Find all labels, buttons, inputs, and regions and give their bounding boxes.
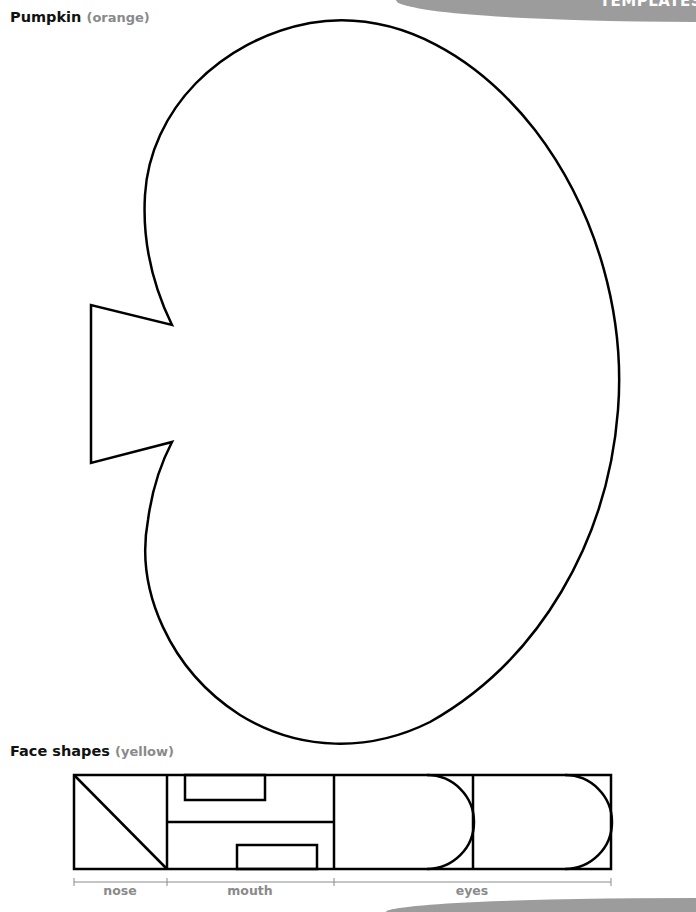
mouth-piece-bottom xyxy=(237,845,317,869)
nose-label: nose xyxy=(103,883,136,898)
mouth-label: mouth xyxy=(227,883,272,898)
template-drawing xyxy=(0,0,696,912)
pumpkin-outline xyxy=(91,20,619,743)
face-shapes-sheet xyxy=(74,775,612,869)
face-shapes-title: Face shapes xyxy=(10,743,110,759)
eye-right-curve xyxy=(565,775,612,869)
face-shapes-color-hint: (yellow) xyxy=(115,744,174,759)
eyes-label: eyes xyxy=(456,883,489,898)
eye-left-curve xyxy=(427,775,474,869)
mouth-piece-top xyxy=(185,775,265,800)
face-shapes-heading: Face shapes (yellow) xyxy=(10,743,174,759)
measure-lines xyxy=(74,878,611,886)
nose-triangle-edge xyxy=(74,775,167,869)
